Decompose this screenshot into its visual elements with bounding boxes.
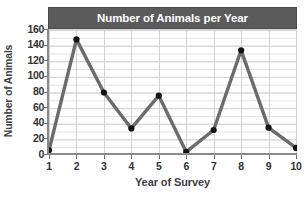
y-axis-tick-labels: 020406080100120140160: [17, 24, 44, 158]
x-axis-tick-mark: [186, 155, 187, 159]
x-axis-tick-mark: [76, 155, 77, 159]
data-line-series: [49, 39, 296, 152]
x-axis-tick-mark: [49, 155, 50, 159]
plot-area: [48, 29, 297, 154]
x-axis-tick-mark: [269, 155, 270, 159]
x-axis-tick-label: 10: [283, 160, 305, 172]
y-axis-tick-label: 160: [17, 24, 44, 35]
gridlines-major: [48, 31, 297, 156]
x-axis-tick-label: 3: [91, 160, 117, 172]
y-axis-title-label: Number of Animals: [2, 45, 14, 137]
y-axis-tick-mark: [43, 45, 48, 46]
x-axis-tick-label: 1: [36, 160, 62, 172]
x-axis-tick-label: 4: [118, 160, 144, 172]
x-axis-tick-label: 5: [146, 160, 172, 172]
y-axis-tick-label: 40: [17, 117, 44, 128]
x-axis-tick-label: 9: [256, 160, 282, 172]
x-axis-title-label: Year of Survey: [135, 176, 210, 188]
chart-title: Number of Animals per Year: [97, 12, 248, 24]
x-axis-tick-mark: [104, 155, 105, 159]
chart-title-band: Number of Animals per Year: [48, 7, 297, 29]
y-axis-tick-mark: [43, 60, 48, 61]
x-axis-title: Year of Survey: [48, 176, 297, 188]
y-axis-tick-mark: [43, 138, 48, 139]
x-axis-tick-label: 7: [201, 160, 227, 172]
y-axis-tick-label: 140: [17, 39, 44, 50]
x-axis-line: [47, 153, 297, 155]
x-axis-tick-mark: [131, 155, 132, 159]
y-axis-tick-mark: [43, 107, 48, 108]
x-axis-tick-labels: 12345678910: [0, 160, 305, 174]
y-axis-tick-label: 0: [17, 149, 44, 160]
y-axis-tick-mark: [43, 154, 48, 155]
x-axis-tick-mark: [159, 155, 160, 159]
y-axis-tick-label: 20: [17, 133, 44, 144]
y-axis-tick-label: 120: [17, 55, 44, 66]
y-axis-tick-mark: [43, 92, 48, 93]
line-chart: Number of Animals 020406080100120140160 …: [0, 0, 305, 199]
y-axis-tick-mark: [43, 29, 48, 30]
x-axis-tick-label: 6: [173, 160, 199, 172]
x-axis-tick-mark: [296, 155, 297, 159]
plot-svg: [48, 30, 297, 155]
x-axis-tick-mark: [241, 155, 242, 159]
x-axis-tick-mark: [214, 155, 215, 159]
y-axis-tick-label: 80: [17, 86, 44, 97]
y-axis-title: Number of Animals: [0, 30, 16, 152]
x-axis-tick-label: 2: [63, 160, 89, 172]
x-axis-tick-label: 8: [228, 160, 254, 172]
y-axis-tick-label: 100: [17, 70, 44, 81]
y-axis-tick-label: 60: [17, 102, 44, 113]
y-axis-tick-mark: [43, 76, 48, 77]
y-axis-tick-mark: [43, 123, 48, 124]
